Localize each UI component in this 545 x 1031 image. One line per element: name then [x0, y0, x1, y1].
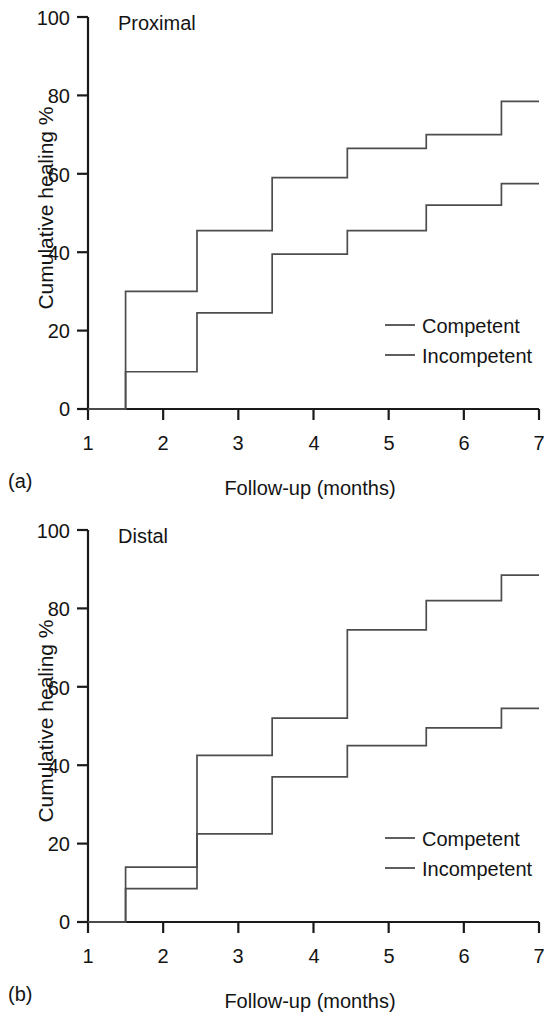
- panel-b-ytick-20: 20: [10, 833, 70, 856]
- panel-a-ytick-20: 20: [10, 320, 70, 343]
- panel-a-ytick-0: 0: [10, 398, 70, 421]
- panel-a-xtick-7: 7: [519, 432, 545, 455]
- panel-b-ytick-80: 80: [10, 598, 70, 621]
- panel-a-xtick-1: 1: [68, 432, 108, 455]
- panel-a-ytick-100: 100: [10, 7, 70, 30]
- panel-b-tag: (b): [8, 983, 32, 1006]
- panel-b-xtick-5: 5: [369, 945, 409, 968]
- panel-b-legend-label-competent: Competent: [422, 828, 520, 851]
- panel-a-legend-label-competent: Competent: [422, 315, 520, 338]
- panel-a-xtick-3: 3: [218, 432, 258, 455]
- panel-a-x-axis-label: Follow-up (months): [150, 477, 470, 500]
- chart-panel-b: Distal Cumulative healing % Follow-up (m…: [0, 513, 545, 1028]
- panel-b-legend-label-incompetent: Incompetent: [422, 858, 532, 881]
- panel-b-xtick-3: 3: [218, 945, 258, 968]
- panel-a-xtick-5: 5: [369, 432, 409, 455]
- panel-b-xtick-6: 6: [444, 945, 484, 968]
- panel-b-xtick-7: 7: [519, 945, 545, 968]
- panel-b-xtick-2: 2: [143, 945, 183, 968]
- panel-a-xtick-2: 2: [143, 432, 183, 455]
- panel-b-ytick-100: 100: [10, 520, 70, 543]
- step-curve-incompetent: [88, 184, 539, 409]
- panel-a-tag: (a): [8, 470, 32, 493]
- chart-panel-a: Proximal Cumulative healing % Follow-up …: [0, 0, 545, 515]
- panel-a-ytick-60: 60: [10, 164, 70, 187]
- panel-b-ytick-40: 40: [10, 755, 70, 778]
- panel-a-ytick-80: 80: [10, 85, 70, 108]
- panel-b-x-axis-label: Follow-up (months): [150, 990, 470, 1013]
- panel-a-title: Proximal: [118, 12, 196, 35]
- panel-b-ytick-60: 60: [10, 677, 70, 700]
- panel-b-ytick-0: 0: [10, 911, 70, 934]
- kaplan-meier-figure: Proximal Cumulative healing % Follow-up …: [0, 0, 545, 1031]
- panel-b-xtick-1: 1: [68, 945, 108, 968]
- panel-a-xtick-4: 4: [294, 432, 334, 455]
- step-curve-incompetent: [88, 708, 539, 922]
- panel-b-xtick-4: 4: [294, 945, 334, 968]
- panel-a-ytick-40: 40: [10, 242, 70, 265]
- panel-b-title: Distal: [118, 525, 168, 548]
- panel-a-legend-label-incompetent: Incompetent: [422, 345, 532, 368]
- panel-a-xtick-6: 6: [444, 432, 484, 455]
